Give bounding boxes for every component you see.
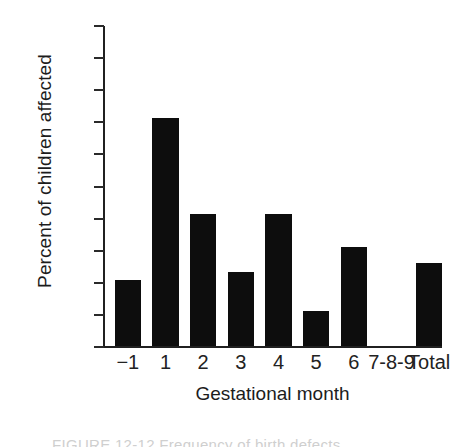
bars-layer: [103, 26, 442, 347]
x-axis-tick-label: Total: [397, 352, 454, 372]
bar: [416, 263, 442, 346]
bar: [152, 118, 178, 346]
bar: [303, 311, 329, 346]
x-axis-tick-labels: −11234567-8-9Total: [103, 352, 442, 380]
figure-caption-cutoff: FIGURE 12-12 Frequency of birth defects: [52, 436, 445, 447]
y-axis-title: Percent of children affected: [34, 21, 56, 321]
bar: [190, 214, 216, 346]
bar: [341, 247, 367, 347]
bar: [228, 272, 254, 346]
bar: [115, 280, 141, 346]
bar: [265, 214, 291, 346]
x-axis-title: Gestational month: [103, 383, 442, 405]
